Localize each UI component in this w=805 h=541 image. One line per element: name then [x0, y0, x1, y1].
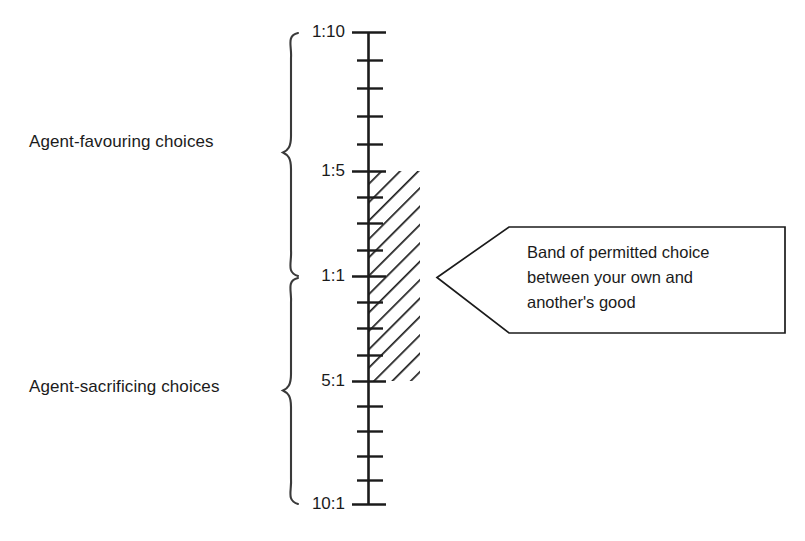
tick-label-1-1: 1:1	[255, 266, 345, 286]
bracket-agent-favouring	[283, 33, 298, 276]
callout-text-block: Band of permitted choice between your ow…	[527, 240, 777, 315]
bracket-label-agent-favouring: Agent-favouring choices	[29, 132, 214, 152]
bracket-agent-sacrificing	[283, 278, 298, 504]
callout-line-1: Band of permitted choice	[527, 240, 777, 265]
tick-label-1-5: 1:5	[255, 161, 345, 181]
bracket-curve-lower	[283, 278, 298, 504]
tick-label-10-1: 10:1	[249, 494, 345, 514]
tick-label-5-1: 5:1	[255, 371, 345, 391]
callout-line-2: between your own and	[527, 265, 777, 290]
ratio-scale-diagram: 1:10 1:5 1:1 5:1 10:1 Agent-favouring ch…	[0, 0, 805, 541]
bracket-curve-upper	[283, 33, 298, 276]
bracket-label-agent-sacrificing: Agent-sacrificing choices	[29, 377, 220, 397]
callout-line-3: another's good	[527, 290, 777, 315]
tick-label-1-10: 1:10	[255, 22, 345, 42]
